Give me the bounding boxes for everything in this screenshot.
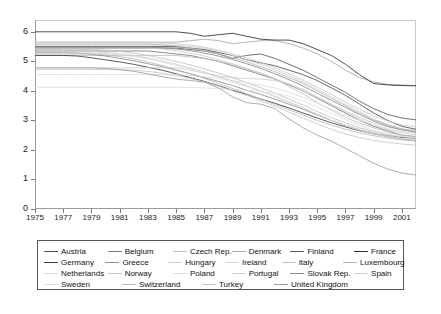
y-tick-mark <box>31 61 35 62</box>
legend-label: Belgium <box>125 248 154 256</box>
legend-item[interactable]: Germany <box>44 259 105 267</box>
x-tick-label: 1995 <box>302 213 332 222</box>
legend-line-swatch <box>343 262 357 263</box>
x-tick-mark <box>35 209 36 213</box>
legend-label: Turkey <box>219 281 243 289</box>
legend-row: NetherlandsNorwayPolandPortugalSlovak Re… <box>44 268 403 279</box>
x-tick-mark <box>204 209 205 213</box>
legend-item[interactable]: Norway <box>108 270 173 278</box>
legend-item[interactable]: Netherlands <box>44 270 108 278</box>
legend-label: Italy <box>299 259 314 267</box>
line-chart: 0123456 19751977197919811983198519871989… <box>0 0 441 232</box>
x-tick-label: 1977 <box>48 213 78 222</box>
x-tick-label: 1987 <box>189 213 219 222</box>
x-tick-label: 1985 <box>161 213 191 222</box>
legend-item[interactable]: Slovak Rep. <box>290 270 354 278</box>
x-tick-mark <box>63 209 64 213</box>
legend-label: Norway <box>125 270 152 278</box>
legend-line-swatch <box>108 273 122 274</box>
y-tick-mark <box>31 32 35 33</box>
chart-legend: AustriaBelgiumCzech Rep.DenmarkFinlandFr… <box>37 240 404 290</box>
legend-label: Sweden <box>61 281 90 289</box>
legend-item[interactable]: Ireland <box>225 259 282 267</box>
legend-item[interactable]: Austria <box>44 248 108 256</box>
legend-label: Switzerland <box>139 281 180 289</box>
legend-label: Denmark <box>249 248 281 256</box>
legend-item[interactable]: United Kingdom <box>274 281 346 289</box>
legend-line-swatch <box>105 262 119 263</box>
y-tick-mark <box>31 120 35 121</box>
y-tick-label: 3 <box>6 115 28 124</box>
legend-item[interactable]: Portugal <box>232 270 291 278</box>
legend-line-swatch <box>232 251 246 252</box>
y-tick-label: 6 <box>6 27 28 36</box>
series-line <box>35 70 416 146</box>
y-tick-label: 5 <box>6 56 28 65</box>
x-tick-mark <box>233 209 234 213</box>
legend-label: Spain <box>371 270 391 278</box>
x-tick-label: 1975 <box>20 213 50 222</box>
x-tick-mark <box>289 209 290 213</box>
legend-label: Ireland <box>242 259 266 267</box>
series-line <box>35 32 416 86</box>
legend-line-swatch <box>173 251 187 252</box>
x-tick-label: 1989 <box>218 213 248 222</box>
legend-item[interactable]: Greece <box>105 259 168 267</box>
legend-item[interactable]: France <box>354 248 403 256</box>
legend-line-swatch <box>354 251 368 252</box>
legend-item[interactable]: Denmark <box>232 248 291 256</box>
legend-line-swatch <box>282 262 296 263</box>
series-line <box>35 47 416 132</box>
x-tick-label: 1981 <box>105 213 135 222</box>
series-line <box>35 53 416 140</box>
x-tick-mark <box>374 209 375 213</box>
legend-line-swatch <box>44 284 58 285</box>
legend-grid: AustriaBelgiumCzech Rep.DenmarkFinlandFr… <box>38 241 403 289</box>
x-tick-mark <box>345 209 346 213</box>
series-line <box>35 54 416 141</box>
legend-item[interactable]: Belgium <box>108 248 173 256</box>
y-tick-mark <box>31 91 35 92</box>
series-lines <box>35 20 416 209</box>
legend-line-swatch <box>225 262 239 263</box>
x-tick-mark <box>91 209 92 213</box>
legend-item[interactable]: Italy <box>282 259 343 267</box>
y-tick-label: 0 <box>6 204 28 213</box>
legend-label: United Kingdom <box>291 281 348 289</box>
x-tick-mark <box>402 209 403 213</box>
legend-label: Finland <box>307 248 333 256</box>
legend-item[interactable]: Spain <box>354 270 403 278</box>
x-tick-mark <box>120 209 121 213</box>
legend-item[interactable]: Poland <box>173 270 232 278</box>
legend-label: Greece <box>122 259 148 267</box>
legend-item[interactable]: Hungary <box>168 259 225 267</box>
legend-label: Hungary <box>185 259 215 267</box>
y-tick-label: 1 <box>6 174 28 183</box>
x-tick-label: 2001 <box>387 213 417 222</box>
legend-item[interactable]: Switzerland <box>122 281 202 289</box>
legend-item[interactable]: Luxembourg <box>343 259 403 267</box>
legend-label: Czech Rep. <box>190 248 232 256</box>
legend-line-swatch <box>168 262 182 263</box>
legend-row: AustriaBelgiumCzech Rep.DenmarkFinlandFr… <box>44 246 403 257</box>
legend-item[interactable]: Czech Rep. <box>173 248 232 256</box>
x-tick-mark <box>148 209 149 213</box>
legend-line-swatch <box>202 284 216 285</box>
legend-label: Germany <box>61 259 94 267</box>
x-tick-mark <box>176 209 177 213</box>
y-tick-label: 4 <box>6 86 28 95</box>
legend-line-swatch <box>232 273 246 274</box>
legend-row: SwedenSwitzerlandTurkeyUnited Kingdom <box>44 279 403 290</box>
legend-line-swatch <box>274 284 288 285</box>
x-tick-label: 1997 <box>330 213 360 222</box>
legend-line-swatch <box>44 273 58 274</box>
chart-page: 0123456 19751977197919811983198519871989… <box>0 0 441 314</box>
legend-item[interactable]: Sweden <box>44 281 122 289</box>
legend-item[interactable]: Turkey <box>202 281 274 289</box>
x-tick-label: 1999 <box>359 213 389 222</box>
x-tick-label: 1983 <box>133 213 163 222</box>
x-tick-label: 1993 <box>274 213 304 222</box>
series-line <box>35 48 416 132</box>
legend-item[interactable]: Finland <box>290 248 354 256</box>
y-tick-mark <box>31 179 35 180</box>
